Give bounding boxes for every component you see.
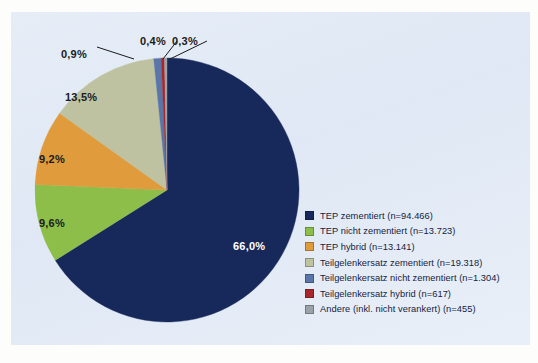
legend-item-teilgelenkersatz-nicht-zementiert[interactable]: Teilgelenkersatz nicht zementiert (n=1.3… [305,270,525,286]
legend-item-label: Teilgelenkersatz hybrid (n=617) [320,289,451,299]
legend-item-label: Teilgelenkersatz zementiert (n=19.318) [320,258,482,268]
legend-item-label: Andere (inkl. nicht verankert) (n=455) [320,304,476,314]
legend-item-tep-nicht-zementiert[interactable]: TEP nicht zementiert (n=13.723) [305,224,525,240]
legend-swatch-icon [305,289,314,298]
legend: TEP zementiert (n=94.466) TEP nicht zeme… [305,208,525,317]
chart-panel: 66,0% 9,6% 9,2% 13,5% 0,9% 0,4% 0,3% TEP… [11,12,530,345]
slice-label-tep-zementiert: 66,0% [233,240,265,252]
slice-label-tep-hybrid: 9,2% [39,153,65,165]
legend-swatch-icon [305,274,314,283]
legend-item-label: TEP zementiert (n=94.466) [320,211,433,221]
legend-item-label: TEP nicht zementiert (n=13.723) [320,226,455,236]
legend-item-tep-zementiert[interactable]: TEP zementiert (n=94.466) [305,208,525,224]
chart-image: 66,0% 9,6% 9,2% 13,5% 0,9% 0,4% 0,3% TEP… [0,0,538,363]
legend-swatch-icon [305,227,314,236]
legend-item-andere[interactable]: Andere (inkl. nicht verankert) (n=455) [305,302,525,318]
legend-item-label: Teilgelenkersatz nicht zementiert (n=1.3… [320,273,500,283]
legend-swatch-icon [305,258,314,267]
legend-item-label: TEP hybrid (n=13.141) [320,242,415,252]
legend-swatch-icon [305,211,314,220]
slice-label-andere: 0,3% [172,35,198,47]
legend-swatch-icon [305,305,314,314]
legend-item-tep-hybrid[interactable]: TEP hybrid (n=13.141) [305,239,525,255]
slice-label-tep-nicht-zementiert: 9,6% [39,217,65,229]
slice-label-teilgelenkersatz-zementiert: 13,5% [65,91,97,103]
slice-label-teilgelenkersatz-nicht-zementiert: 0,9% [61,48,87,60]
legend-item-teilgelenkersatz-hybrid[interactable]: Teilgelenkersatz hybrid (n=617) [305,286,525,302]
legend-swatch-icon [305,242,314,251]
legend-item-teilgelenkersatz-zementiert[interactable]: Teilgelenkersatz zementiert (n=19.318) [305,255,525,271]
slice-label-teilgelenkersatz-hybrid: 0,4% [140,35,166,47]
